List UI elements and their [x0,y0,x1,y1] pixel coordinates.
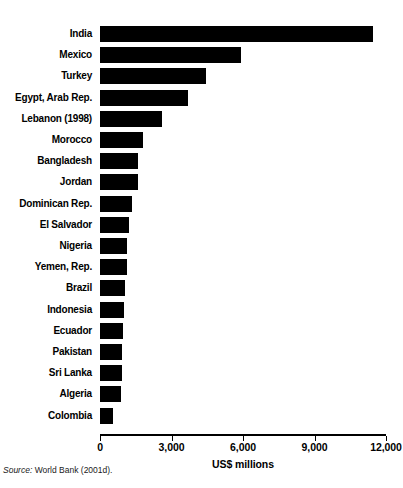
bar [100,386,121,402]
category-label: Yemen, Rep. [0,259,92,275]
bar-row: Egypt, Arab Rep. [0,90,403,111]
x-tick-label: 12,000 [351,441,403,453]
bar-row: Bangladesh [0,153,403,174]
category-label: Pakistan [0,344,92,360]
bar [100,323,123,339]
category-label: Jordan [0,174,92,190]
bar-row: Jordan [0,174,403,195]
bar [100,280,125,296]
bar [100,259,127,275]
bar [100,111,162,127]
bar-row: Pakistan [0,344,403,365]
x-axis: 03,0006,0009,00012,000 US$ millions [0,430,403,488]
x-tick-label: 0 [65,441,135,453]
bar [100,238,127,254]
category-label: Lebanon (1998) [0,111,92,127]
bar-row: Lebanon (1998) [0,111,403,132]
bar-row: Turkey [0,68,403,89]
bar-row: Ecuador [0,323,403,344]
source-note: Source: World Bank (2001d). [3,465,112,475]
x-axis-title: US$ millions [100,458,386,470]
category-label: Dominican Rep. [0,196,92,212]
category-label: Indonesia [0,302,92,318]
x-tick-label: 6,000 [208,441,278,453]
bar-row: Colombia [0,408,403,429]
category-label: Algeria [0,386,92,402]
bar [100,217,129,233]
bar-row: Nigeria [0,238,403,259]
bar-row: Brazil [0,280,403,301]
bar-row: India [0,26,403,47]
bar-row: Sri Lanka [0,365,403,386]
category-label: Colombia [0,408,92,424]
category-label: Turkey [0,68,92,84]
bar [100,174,138,190]
bar-row: Indonesia [0,302,403,323]
bar [100,26,373,42]
bar [100,408,113,424]
bar [100,344,122,360]
source-label: Source: [3,465,32,475]
x-tick-label: 9,000 [280,441,350,453]
bar-row: Algeria [0,386,403,407]
category-label: Morocco [0,132,92,148]
category-label: Nigeria [0,238,92,254]
bar-row: El Salvador [0,217,403,238]
bar [100,132,143,148]
category-label: Brazil [0,280,92,296]
bar [100,302,124,318]
source-value: World Bank (2001d). [32,465,112,475]
bar [100,68,206,84]
category-label: India [0,26,92,42]
x-tick-label: 3,000 [137,441,207,453]
bar [100,47,241,63]
bar-row: Morocco [0,132,403,153]
category-label: Mexico [0,47,92,63]
bar-row: Mexico [0,47,403,68]
category-label: Bangladesh [0,153,92,169]
plot-area: IndiaMexicoTurkeyEgypt, Arab Rep.Lebanon… [0,0,403,432]
bar [100,196,132,212]
bar [100,90,188,106]
category-label: Egypt, Arab Rep. [0,90,92,106]
category-label: Ecuador [0,323,92,339]
category-label: El Salvador [0,217,92,233]
bar [100,153,138,169]
bar-row: Dominican Rep. [0,196,403,217]
remittances-bar-chart-figure: IndiaMexicoTurkeyEgypt, Arab Rep.Lebanon… [0,0,403,488]
bar [100,365,122,381]
bar-row: Yemen, Rep. [0,259,403,280]
category-label: Sri Lanka [0,365,92,381]
